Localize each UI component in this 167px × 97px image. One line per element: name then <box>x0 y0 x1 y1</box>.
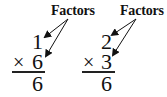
factors-label: Factors <box>120 3 164 19</box>
product: 6 <box>32 73 43 95</box>
factor-bottom: 6 <box>32 51 43 73</box>
multiply-sign: × <box>13 51 24 73</box>
multiplication-problem-2: Factors 2 × 3 6 <box>70 0 154 97</box>
product: 6 <box>101 73 112 95</box>
multiply-sign: × <box>83 51 94 73</box>
factor-bottom: 3 <box>101 51 112 73</box>
